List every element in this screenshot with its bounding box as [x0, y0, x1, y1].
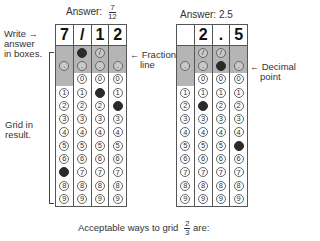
digit-bubble[interactable]: 1 [198, 88, 208, 98]
digit-bubble[interactable]: 7 [113, 167, 123, 177]
digit-bubble[interactable]: 8 [95, 181, 105, 191]
decimal-bubble[interactable]: . [113, 61, 123, 71]
digit-bubble[interactable]: 8 [198, 181, 208, 191]
digit-bubble-filled[interactable]: 2 [113, 101, 123, 111]
digit-bubble[interactable]: 3 [113, 114, 123, 124]
decimal-bubble[interactable]: . [234, 61, 244, 71]
digit-bubble[interactable]: 3 [234, 114, 244, 124]
digit-bubble[interactable]: 0 [198, 74, 208, 84]
digit-bubble[interactable]: 1 [216, 88, 226, 98]
digit-bubble[interactable]: 8 [59, 181, 69, 191]
digit-bubble[interactable]: 9 [216, 194, 226, 204]
digit-bubble[interactable]: 0 [216, 74, 226, 84]
digit-bubble[interactable]: 5 [180, 141, 190, 151]
digit-bubble[interactable]: 3 [95, 114, 105, 124]
digit-bubble[interactable]: 9 [95, 194, 105, 204]
digit-bubble[interactable]: 1 [113, 88, 123, 98]
digit-bubble[interactable]: 1 [234, 88, 244, 98]
answer-box[interactable]: 5 [230, 25, 247, 45]
digit-bubble[interactable]: 3 [198, 114, 208, 124]
digit-bubble[interactable]: 5 [113, 141, 123, 151]
digit-bubble[interactable]: 6 [180, 154, 190, 164]
digit-bubble[interactable]: 8 [113, 181, 123, 191]
answer-box[interactable]: 1 [92, 25, 110, 45]
digit-bubble[interactable]: 9 [113, 194, 123, 204]
digit-bubble[interactable]: 4 [198, 127, 208, 137]
digit-row: 3333 [177, 112, 247, 125]
digit-bubble[interactable]: 3 [77, 114, 87, 124]
answer-box[interactable]: . [213, 25, 231, 45]
digit-bubble[interactable]: 5 [95, 141, 105, 151]
digit-bubble[interactable]: 1 [59, 88, 69, 98]
digit-bubble[interactable]: 7 [95, 167, 105, 177]
digit-bubble[interactable]: 8 [180, 181, 190, 191]
digit-bubble[interactable]: 7 [77, 167, 87, 177]
digit-bubble[interactable]: 8 [77, 181, 87, 191]
digit-bubble[interactable]: 4 [77, 127, 87, 137]
decimal-bubble[interactable]: . [59, 61, 69, 71]
digit-bubble-filled[interactable]: 1 [95, 88, 105, 98]
decimal-bubble[interactable]: . [95, 61, 105, 71]
digit-bubble[interactable]: 0 [77, 74, 87, 84]
digit-row: 2222 [177, 99, 247, 112]
digit-bubble[interactable]: 5 [59, 141, 69, 151]
digit-bubble[interactable]: 9 [77, 194, 87, 204]
digit-bubble[interactable]: 4 [59, 127, 69, 137]
digit-bubble[interactable]: 2 [59, 101, 69, 111]
digit-bubble[interactable]: 2 [180, 101, 190, 111]
decimal-bubble-filled[interactable]: . [216, 61, 226, 71]
digit-bubble-filled[interactable]: 7 [59, 167, 69, 177]
decimal-bubble[interactable]: . [77, 61, 87, 71]
digit-bubble[interactable]: 9 [234, 194, 244, 204]
digit-bubble[interactable]: 6 [234, 154, 244, 164]
digit-bubble[interactable]: 2 [77, 101, 87, 111]
digit-bubble[interactable]: 6 [95, 154, 105, 164]
digit-bubble-filled[interactable]: 2 [198, 101, 208, 111]
digit-bubble[interactable]: 4 [180, 127, 190, 137]
decimal-bubble[interactable]: . [180, 61, 190, 71]
digit-bubble[interactable]: 8 [234, 181, 244, 191]
digit-bubble[interactable]: 2 [216, 101, 226, 111]
digit-bubble[interactable]: 9 [59, 194, 69, 204]
answer-box[interactable] [177, 25, 195, 45]
answer-box[interactable]: / [74, 25, 92, 45]
digit-bubble[interactable]: 1 [180, 88, 190, 98]
digit-bubble[interactable]: 6 [113, 154, 123, 164]
digit-bubble-filled[interactable]: 5 [234, 141, 244, 151]
digit-bubble[interactable]: 7 [198, 167, 208, 177]
digit-bubble[interactable]: 0 [234, 74, 244, 84]
digit-bubble[interactable]: 4 [234, 127, 244, 137]
slash-bubble[interactable]: / [198, 48, 208, 58]
digit-bubble[interactable]: 2 [234, 101, 244, 111]
slash-bubble-filled[interactable]: / [77, 48, 87, 58]
answer-box[interactable]: 2 [195, 25, 213, 45]
slash-bubble[interactable]: / [216, 48, 226, 58]
digit-bubble[interactable]: 6 [216, 154, 226, 164]
digit-bubble[interactable]: 1 [77, 88, 87, 98]
digit-bubble[interactable]: 4 [113, 127, 123, 137]
digit-bubble[interactable]: 7 [180, 167, 190, 177]
digit-bubble[interactable]: 4 [95, 127, 105, 137]
slash-bubble[interactable]: / [95, 48, 105, 58]
digit-bubble[interactable]: 6 [198, 154, 208, 164]
digit-bubble[interactable]: 9 [180, 194, 190, 204]
digit-bubble[interactable]: 9 [198, 194, 208, 204]
digit-bubble[interactable]: 6 [59, 154, 69, 164]
answer-box[interactable]: 7 [56, 25, 74, 45]
digit-bubble[interactable]: 3 [59, 114, 69, 124]
answer-box[interactable]: 2 [109, 25, 126, 45]
digit-bubble[interactable]: 4 [216, 127, 226, 137]
digit-bubble[interactable]: 5 [216, 141, 226, 151]
digit-bubble[interactable]: 2 [95, 101, 105, 111]
digit-bubble[interactable]: 7 [216, 167, 226, 177]
digit-bubble[interactable]: 0 [113, 74, 123, 84]
digit-bubble[interactable]: 3 [180, 114, 190, 124]
digit-bubble[interactable]: 7 [234, 167, 244, 177]
digit-bubble[interactable]: 5 [77, 141, 87, 151]
digit-bubble[interactable]: 8 [216, 181, 226, 191]
decimal-bubble[interactable]: . [198, 61, 208, 71]
digit-bubble[interactable]: 0 [95, 74, 105, 84]
digit-bubble[interactable]: 6 [77, 154, 87, 164]
digit-bubble[interactable]: 3 [216, 114, 226, 124]
digit-bubble[interactable]: 5 [198, 141, 208, 151]
